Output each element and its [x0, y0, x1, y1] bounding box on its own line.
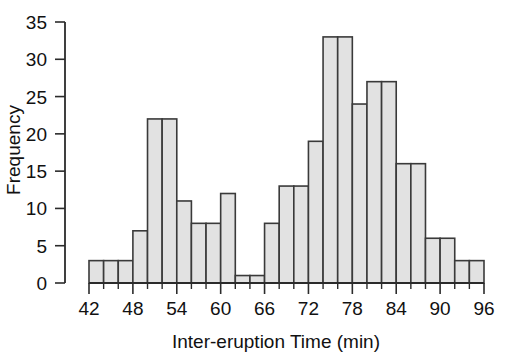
x-tick-label: 48 [122, 298, 143, 319]
x-tick-label: 96 [473, 298, 494, 319]
x-tick-label: 78 [342, 298, 363, 319]
histogram-bar [118, 261, 133, 283]
histogram-bar [294, 186, 309, 283]
x-tick-label: 54 [166, 298, 188, 319]
x-tick-label: 42 [78, 298, 99, 319]
histogram-bar [396, 164, 411, 283]
x-axis-ticks: 42485460667278849096 [78, 283, 494, 319]
x-tick-label: 90 [430, 298, 451, 319]
y-tick-label: 25 [26, 87, 47, 108]
histogram-chart: 05101520253035 42485460667278849096 Inte… [0, 0, 506, 358]
histogram-bar [338, 37, 353, 283]
y-axis-ticks: 05101520253035 [26, 12, 65, 294]
y-tick-label: 5 [36, 236, 47, 257]
histogram-bar [382, 82, 397, 283]
histogram-bar [89, 261, 104, 283]
histogram-bar [162, 119, 177, 283]
histogram-bar [104, 261, 119, 283]
y-tick-label: 10 [26, 198, 47, 219]
y-axis-title: Frequency [3, 105, 24, 195]
histogram-bar [367, 82, 382, 283]
histogram-bar [235, 276, 250, 283]
histogram-bar [221, 194, 236, 283]
histogram-bar [250, 276, 265, 283]
histogram-bar [425, 238, 440, 283]
bars-group [89, 37, 484, 283]
x-tick-label: 60 [210, 298, 231, 319]
histogram-bar [308, 141, 323, 283]
y-tick-label: 15 [26, 161, 47, 182]
histogram-bar [411, 164, 426, 283]
histogram-bar [440, 238, 455, 283]
x-axis-title: Inter-eruption Time (min) [172, 331, 380, 352]
histogram-bar [323, 37, 338, 283]
histogram-bar [133, 231, 148, 283]
y-tick-label: 35 [26, 12, 47, 33]
histogram-bar [148, 119, 163, 283]
y-tick-label: 0 [36, 273, 47, 294]
y-tick-label: 20 [26, 124, 47, 145]
x-tick-label: 72 [298, 298, 319, 319]
x-tick-label: 84 [386, 298, 408, 319]
y-tick-label: 30 [26, 49, 47, 70]
histogram-bar [265, 223, 280, 283]
histogram-bar [177, 201, 192, 283]
histogram-bar [469, 261, 484, 283]
histogram-bar [352, 104, 367, 283]
x-tick-label: 66 [254, 298, 275, 319]
histogram-bar [206, 223, 221, 283]
histogram-bar [279, 186, 294, 283]
histogram-bar [191, 223, 206, 283]
chart-canvas: 05101520253035 42485460667278849096 Inte… [0, 0, 506, 358]
histogram-bar [455, 261, 470, 283]
